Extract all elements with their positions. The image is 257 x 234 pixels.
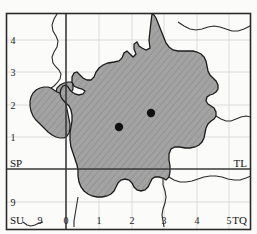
x-tick-label-9-left: 9 [38, 215, 43, 226]
x-tick-label-4: 4 [195, 215, 200, 226]
record-point-1 [115, 123, 123, 131]
x-tick-label-5: 5 [227, 215, 232, 226]
y-tick-label-3: 3 [11, 67, 16, 78]
grid-square-label-sp: SP [10, 157, 22, 169]
x-tick-label-3: 3 [162, 215, 167, 226]
y-tick-label-4: 4 [11, 35, 16, 46]
grid-square-label-su: SU [10, 214, 24, 226]
record-point-2 [147, 109, 155, 117]
grid-square-label-tq: TQ [232, 214, 247, 226]
x-tick-label-2: 2 [130, 215, 135, 226]
distribution-map-figure: 0 1 2 3 4 5 9 4 3 2 1 9 SP TL SU TQ [0, 0, 257, 234]
x-tick-label-1: 1 [97, 215, 102, 226]
grid-square-label-tl: TL [234, 157, 248, 169]
y-tick-label-2: 2 [11, 100, 16, 111]
x-tick-label-0: 0 [64, 215, 69, 226]
y-tick-label-9: 9 [11, 197, 16, 208]
y-tick-label-1: 1 [11, 132, 16, 143]
map-canvas: 0 1 2 3 4 5 9 4 3 2 1 9 SP TL SU TQ [0, 0, 257, 234]
